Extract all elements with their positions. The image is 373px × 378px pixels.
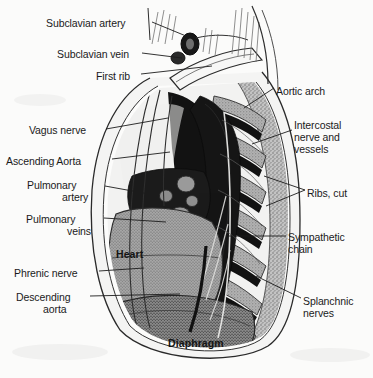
anatomy-label: Sympathetic xyxy=(288,231,345,244)
anatomy-label: nerve and xyxy=(294,131,340,144)
anatomy-label: chain xyxy=(288,243,313,256)
anatomy-label: vessels xyxy=(294,143,328,156)
pulmonary-vein-lumen xyxy=(186,196,198,207)
anatomy-label: Pulmonary xyxy=(26,213,75,226)
anatomy-label: Ascending Aorta xyxy=(6,155,81,168)
anatomy-label: Splanchnic xyxy=(303,295,353,308)
anatomy-label: Diaphragm xyxy=(168,337,224,349)
subclavian-vein xyxy=(171,52,185,64)
anatomy-label: veins xyxy=(67,225,91,238)
anatomy-label: Heart xyxy=(116,248,143,260)
bronchus-lumen xyxy=(160,190,173,202)
anatomy-label: First rib xyxy=(96,70,130,83)
subclavian-artery-lumen xyxy=(186,39,194,50)
anatomy-label: nerves xyxy=(303,307,334,320)
anatomy-label: artery xyxy=(62,191,88,204)
anatomy-label: Subclavian vein xyxy=(57,48,129,61)
pulmonary-artery-lumen xyxy=(177,176,195,192)
anatomy-label: Ribs, cut xyxy=(307,187,347,200)
anatomy-label: Subclavian artery xyxy=(46,17,125,30)
anatomy-label: Aortic arch xyxy=(276,85,325,98)
anatomy-label: aorta xyxy=(43,303,66,316)
anatomy-label: Vagus nerve xyxy=(29,124,86,137)
anatomy-label: Intercostal xyxy=(294,119,341,132)
anatomy-label: Descending xyxy=(16,291,70,304)
anatomy-label: Phrenic nerve xyxy=(14,267,77,280)
anatomy-label: Pulmonary xyxy=(27,179,76,192)
